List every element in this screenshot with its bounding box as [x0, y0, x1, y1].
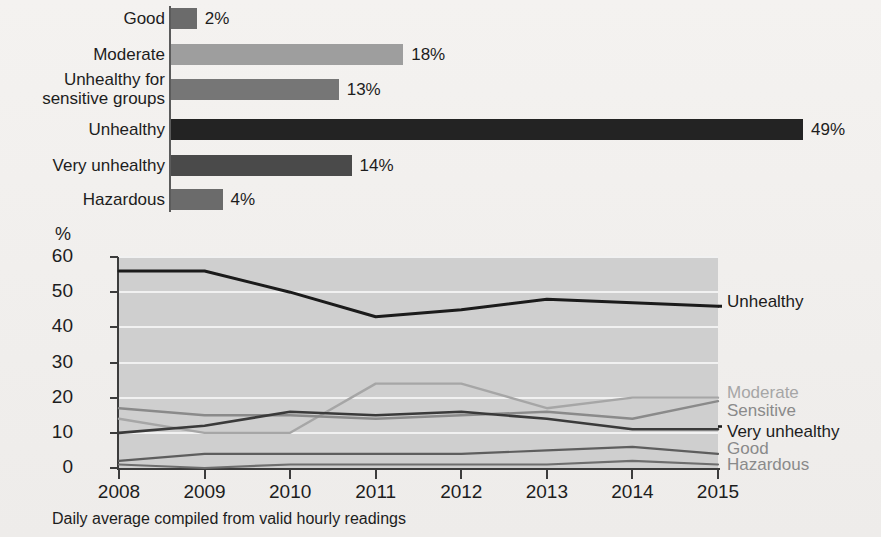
bar-chart-axis	[169, 6, 171, 212]
series-label-sensitive: Sensitive	[727, 401, 796, 421]
series-label-moderate: Moderate	[727, 383, 799, 403]
bar-category-label: Very unhealthy	[53, 156, 165, 175]
bar-rect	[171, 44, 403, 65]
bar-category-label: Moderate	[93, 45, 165, 64]
chart-page: Good2%Moderate18%Unhealthy for sensitive…	[0, 0, 881, 537]
series-label-unhealthy: Unhealthy	[727, 292, 804, 312]
multi-series-line-chart: % 0102030405060 200820092010201120122013…	[0, 222, 881, 537]
bar-value-label: 49%	[811, 119, 845, 140]
bar-rect	[171, 119, 803, 140]
series-line	[119, 271, 718, 317]
series-line	[119, 401, 718, 419]
chart-footnote: Daily average compiled from valid hourly…	[52, 510, 406, 528]
series-lines	[0, 222, 881, 537]
series-line	[119, 461, 718, 468]
bar-value-label: 2%	[205, 8, 230, 29]
bar-value-label: 18%	[411, 44, 445, 65]
bar-value-label: 13%	[347, 79, 381, 100]
bar-category-label: Unhealthy for sensitive groups	[42, 70, 165, 108]
bar-rect	[171, 8, 197, 29]
bar-rect	[171, 155, 352, 176]
bar-category-label: Good	[123, 9, 165, 28]
series-line	[119, 447, 718, 461]
bar-rect	[171, 79, 339, 100]
horizontal-bar-chart: Good2%Moderate18%Unhealthy for sensitive…	[0, 0, 881, 222]
bar-value-label: 4%	[231, 189, 256, 210]
bar-category-label: Unhealthy	[88, 120, 165, 139]
bar-value-label: 14%	[360, 155, 394, 176]
series-label-hazardous: Hazardous	[727, 455, 809, 475]
bar-category-label: Hazardous	[83, 190, 165, 209]
bar-rect	[171, 189, 223, 210]
